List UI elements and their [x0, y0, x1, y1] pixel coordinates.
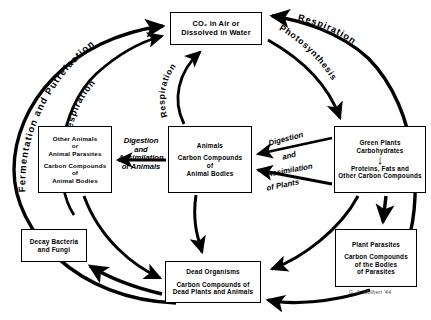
plant-parasites-box: Plant Parasites Carbon Compounds of the …: [335, 229, 417, 287]
animals-line-3: of: [207, 162, 213, 170]
plant-parasites-line-1: Plant Parasites: [352, 241, 400, 248]
downward-arrow-icon: ↓: [377, 155, 384, 164]
animals-line-2: Carbon Compounds: [178, 154, 243, 162]
arrow-dead-to-decay: [90, 266, 162, 294]
digestion-animals-line-2: and: [134, 145, 148, 154]
dead-organisms-line-3: Dead Plants and Animals: [173, 288, 254, 296]
artist-signature: G. A. Mulbert '44: [349, 289, 391, 295]
other-animals-line-5: of: [72, 169, 78, 176]
digestion-animals-line-1: Digestion: [124, 136, 159, 145]
dead-organisms-line-1: Dead Organisms: [186, 268, 240, 276]
label-digestion-plants-4: of Plants: [266, 177, 301, 193]
co2-box: CO₂ in Air or Dissolved in Water: [170, 12, 262, 45]
label-digestion-assimilation-animals: Digestion and Assimilation of Animals: [116, 137, 166, 172]
label-respiration-center: Respiration: [156, 61, 178, 119]
animals-line-1: Animals: [197, 142, 223, 150]
green-plants-line-4: Other Carbon Compounds: [338, 172, 421, 179]
arrow-other-animals-to-dead: [84, 196, 160, 278]
other-animals-line-2: or: [72, 142, 79, 149]
green-plants-line-1: Green Plants: [359, 139, 400, 146]
plant-parasites-line-2: Carbon Compounds: [344, 253, 408, 260]
decay-bacteria-box: Decay Bacteria and Fungi: [21, 229, 87, 262]
label-digestion-plants-2: and: [281, 150, 297, 162]
arrow-plants-to-parasites: [383, 196, 386, 222]
other-animals-box: Other Animals or Animal Parasites Carbon…: [38, 126, 112, 193]
other-animals-line-4: Carbon Compounds: [44, 162, 107, 169]
decay-line-2: and Fungi: [38, 246, 70, 254]
animals-line-4: Animal Bodies: [187, 170, 234, 178]
other-animals-line-6: Animal Bodies: [52, 177, 98, 184]
arrow-animals-to-dead: [195, 195, 202, 252]
dead-organisms-box: Dead Organisms Carbon Compounds of Dead …: [165, 261, 261, 303]
arrow-respiration-center: [178, 52, 200, 124]
carbon-cycle-diagram: Fermentation and Putrefaction Respiratio…: [0, 0, 431, 320]
plant-parasites-line-4: of Parasites: [357, 268, 395, 275]
green-plants-box: Green Plants Carbohydrates ↓ Proteins, F…: [334, 126, 426, 193]
digestion-animals-line-4: of Animals: [122, 162, 161, 171]
decay-line-1: Decay Bacteria: [30, 238, 79, 246]
other-animals-line-1: Other Animals: [53, 135, 98, 142]
co2-line-2: Dissolved in Water: [181, 29, 250, 38]
green-plants-line-3: Proteins, Fats and: [351, 165, 409, 172]
dead-organisms-line-2: Carbon Compounds of: [176, 281, 249, 289]
plant-parasites-line-3: of the Bodies: [355, 261, 397, 268]
animals-box: Animals Carbon Compounds of Animal Bodie…: [168, 126, 252, 193]
other-animals-line-3: Animal Parasites: [48, 150, 101, 157]
digestion-animals-line-3: Assimilation: [118, 153, 163, 162]
